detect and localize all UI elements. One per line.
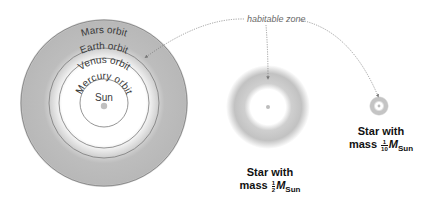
caption-line-1: Star with: [230, 166, 310, 179]
mass-symbol: M: [276, 179, 285, 191]
tenth-mass-star-icon: [378, 105, 381, 108]
tenth-mass-star-caption: Star with mass 110MSun: [339, 125, 423, 155]
mass-symbol: M: [389, 138, 398, 150]
solar-system: Mars orbit Earth orbit Venus orbit Mercu…: [20, 19, 188, 187]
caption-line-2: mass 12MSun: [230, 179, 310, 196]
half-mass-star-system: [226, 65, 310, 149]
tenth-mass-star-system: [369, 96, 389, 116]
mass-subscript: Sun: [285, 185, 300, 194]
sun-label: Sun: [95, 92, 113, 103]
half-mass-star-icon: [266, 105, 270, 109]
habitable-zone-label: habitable zone: [247, 14, 306, 24]
sun-icon: [101, 103, 107, 109]
mass-word: mass: [349, 138, 377, 150]
mass-subscript: Sun: [398, 144, 413, 153]
habitable-zone-diagram: Mars orbit Earth orbit Venus orbit Mercu…: [0, 0, 429, 206]
caption-line-2: mass 110MSun: [339, 138, 423, 155]
half-mass-star-caption: Star with mass 12MSun: [230, 166, 310, 196]
mass-word: mass: [240, 179, 268, 191]
mass-fraction: 110: [381, 139, 388, 152]
mass-fraction: 12: [272, 180, 275, 193]
arrow-to-tenth-mass-zone: [300, 20, 378, 96]
caption-line-1: Star with: [339, 125, 423, 138]
